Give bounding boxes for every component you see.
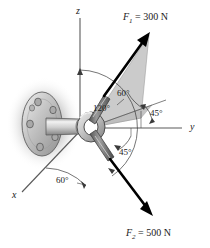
z-axis-label: z [76,6,80,16]
force-2-unit: N [164,227,171,238]
angle-45-lower-label: 45° [119,148,132,157]
y-axis-label: y [190,122,194,132]
angle-45-upper-label: 45° [150,109,163,118]
angle-60-x-axis-label: 60° [56,176,69,185]
force-2-magnitude: 500 [146,227,161,238]
force-1-equals: = [135,11,141,22]
force-2-vector [110,159,153,216]
force-2-equals: = [138,227,144,238]
force-2-subscript: 2 [132,233,136,241]
x-axis-label: x [12,190,16,200]
angle-120-label: 120° [93,104,110,113]
force-1-label: F1 = 300 N [123,12,168,25]
diagram-canvas [0,0,210,248]
angle-60-f1-label: 60° [117,89,130,98]
force-2-label: F2 = 500 N [126,228,171,241]
force-1-unit: N [161,11,168,22]
statics-force-diagram: z y x F1 = 300 N F2 = 500 N 60° 120° 45°… [0,0,210,248]
force-1-subscript: 1 [129,17,133,25]
force-1-magnitude: 300 [143,11,158,22]
